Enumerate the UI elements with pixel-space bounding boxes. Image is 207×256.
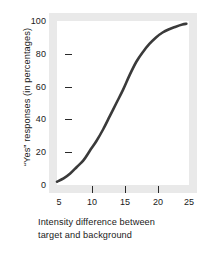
y-tick-mark — [65, 119, 72, 120]
y-tick-mark — [65, 87, 72, 88]
psychometric-curve-svg — [57, 21, 189, 185]
x-tick-label: 25 — [177, 198, 201, 207]
x-axis-title-line2: target and background — [38, 229, 178, 242]
y-tick-mark — [65, 152, 72, 153]
y-tick-mark — [65, 54, 72, 55]
x-axis-title: Intensity difference between target and … — [38, 216, 178, 241]
x-axis-title-line1: Intensity difference between — [38, 216, 178, 229]
y-axis-title: “Yes” responses (in percentages) — [22, 9, 32, 185]
x-tick-mark — [92, 186, 93, 193]
x-tick-mark — [125, 186, 126, 193]
x-tick-label: 5 — [47, 198, 71, 207]
x-tick-label: 20 — [146, 198, 170, 207]
x-tick-label: 10 — [80, 198, 104, 207]
x-tick-mark — [158, 186, 159, 193]
figure: 100 80 60 40 20 0 5 10 15 20 25 Intensit… — [0, 0, 207, 256]
x-tick-label: 15 — [113, 198, 137, 207]
psychometric-curve-line — [57, 24, 186, 182]
